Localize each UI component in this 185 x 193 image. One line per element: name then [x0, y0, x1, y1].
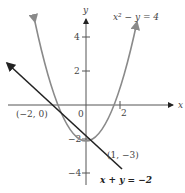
x-axis-label: x — [178, 100, 183, 110]
line-equation: x + y = −2 — [99, 175, 152, 185]
graph: x y 4 2 −2 −4 2 0 x² − y = 4 x + y = −2 … — [0, 0, 185, 193]
tick-label-y4: 4 — [74, 32, 80, 42]
parabola-equation: x² − y = 4 — [113, 12, 159, 22]
point-label-a: (−2, 0) — [16, 109, 48, 119]
origin-label: 0 — [78, 109, 84, 119]
point-label-b: (1, −3) — [107, 150, 139, 160]
tick-label-ym4: −4 — [68, 168, 82, 178]
tick-label-x2: 2 — [121, 108, 127, 118]
tick-label-y2: 2 — [74, 66, 80, 76]
y-axis-label: y — [82, 5, 89, 15]
